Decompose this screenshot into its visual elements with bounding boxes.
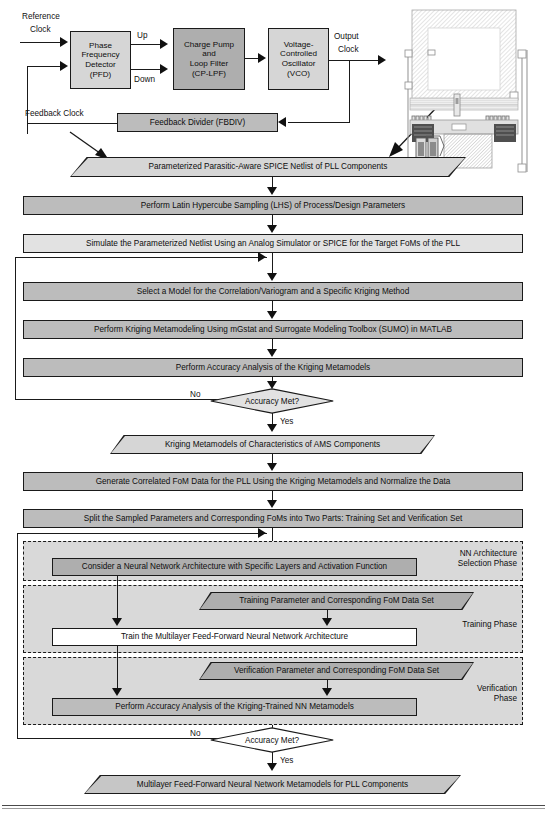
final-metamodels-data-shape: Multilayer Feed-Forward Neural Network M… <box>84 775 461 794</box>
conn-select-to-kriging-arrowhead <box>267 311 277 319</box>
reference-clock-label-line1: Reference <box>22 12 60 22</box>
decision1-yes-label: Yes <box>280 417 293 427</box>
kriging-loop-bottom-wire <box>15 399 218 400</box>
output-tap-vertical-wire <box>349 60 350 123</box>
conn-decision2-to-final-arrowhead <box>267 763 277 771</box>
up-arrowhead <box>160 39 168 49</box>
cplpf-to-vco-arrowhead <box>258 53 266 63</box>
phase-label-nn-architecture-line1: NN Architecture <box>460 549 517 558</box>
output-clock-label-line1: Output <box>334 32 359 42</box>
netlist-data-label: Parameterized Parasitic-Aware SPICE Netl… <box>71 158 465 176</box>
netlist-data-shape: Parameterized Parasitic-Aware SPICE Netl… <box>70 157 466 177</box>
step-train-nn: Train the Multilayer Feed-Forward Neural… <box>52 628 417 646</box>
bottom-divider-rule <box>2 805 545 806</box>
nn-loop-top-wire <box>17 533 267 534</box>
step-kriging-metamodeling: Perform Kriging Metamodeling Using mGsta… <box>23 320 523 339</box>
figure-canvas: Reference Clock Phase Frequency Detector… <box>0 0 547 817</box>
training-data-label: Training Parameter and Corresponding FoM… <box>200 593 473 609</box>
step-select-correlation-model: Select a Model for the Correlation/Vario… <box>23 282 523 301</box>
training-data-shape: Training Parameter and Corresponding FoM… <box>199 592 474 610</box>
step-verify-accuracy-nn: Perform Accuracy Analysis of the Kriging… <box>52 698 417 716</box>
fbdiv-output-wire <box>27 123 117 124</box>
ic-layout-thumbnail-icon <box>400 6 540 174</box>
kriging-metamodels-data-shape: Kriging Metamodels of Characteristics of… <box>110 435 435 454</box>
output-tap-horizontal-wire <box>288 122 350 123</box>
output-clock-label-line2: Clock <box>338 45 358 55</box>
verification-data-shape: Verification Parameter and Corresponding… <box>199 662 474 680</box>
decision-nn-accuracy-met: Accuracy Met? <box>210 727 334 753</box>
verification-data-label: Verification Parameter and Corresponding… <box>200 663 473 679</box>
conn-verifdata-to-verify-arrowhead <box>322 688 332 696</box>
step-latin-hypercube-sampling: Perform Latin Hypercube Sampling (LHS) o… <box>23 196 523 215</box>
down-arrowhead <box>160 64 168 74</box>
step-kriging-accuracy-analysis: Perform Accuracy Analysis of the Kriging… <box>23 358 523 377</box>
decision2-yes-label: Yes <box>280 756 293 766</box>
phase-label-training: Training Phase <box>422 620 517 630</box>
feedback-clock-label: Feedback Clock <box>25 109 84 119</box>
feedback-clock-horizontal-wire <box>27 66 64 67</box>
pll-block-fbdiv: Feedback Divider (FBDIV) <box>117 113 278 132</box>
nn-loop-arrowhead <box>258 528 266 538</box>
step-generate-correlated-fom: Generate Correlated FoM Data for the PLL… <box>23 472 523 491</box>
kriging-metamodels-data-label: Kriging Metamodels of Characteristics of… <box>111 436 434 453</box>
up-wire <box>131 44 163 45</box>
down-wire <box>131 69 163 70</box>
phase-label-nn-architecture-line2: Selection Phase <box>458 559 517 568</box>
phase-label-nn-architecture: NN Architecture Selection Phase <box>422 549 517 570</box>
reference-clock-arrowhead <box>60 37 68 47</box>
conn-generate-to-split-arrowhead <box>267 500 277 508</box>
step-simulate-netlist: Simulate the Parameterized Netlist Using… <box>23 234 523 253</box>
phase-label-verification-line2: Phase <box>494 694 517 703</box>
vco-output-arrowhead <box>378 55 386 65</box>
kriging-loop-arrowhead <box>258 252 266 262</box>
conn-simulate-to-select <box>272 253 273 275</box>
decision-kriging-accuracy-label: Accuracy Met? <box>210 388 334 414</box>
bottom-divider-rule-secondary <box>2 808 545 809</box>
conn-kriging-to-accuracy-arrowhead <box>267 349 277 357</box>
conn-decision1-to-metamodels-arrowhead <box>267 424 277 432</box>
conn-train-to-verify-arrowhead <box>112 688 122 696</box>
up-label: Up <box>137 31 147 41</box>
pll-block-pfd: Phase Frequency Detector (PFD) <box>70 31 131 89</box>
kriging-loop-left-wire <box>15 257 16 400</box>
down-label: Down <box>134 75 155 85</box>
conn-netlist-to-lhs-arrowhead <box>267 187 277 195</box>
feedback-clock-arrowhead <box>60 61 68 71</box>
conn-metamodels-to-generate-arrowhead <box>267 463 277 471</box>
reference-clock-label-line2: Clock <box>30 25 50 35</box>
decision-nn-accuracy-label: Accuracy Met? <box>210 727 334 753</box>
decision2-no-label: No <box>190 729 200 739</box>
conn-trainingdata-to-train-arrowhead <box>322 618 332 626</box>
conn-considernn-to-train <box>117 576 118 620</box>
conn-considernn-to-train-arrowhead <box>112 618 122 626</box>
conn-lhs-to-simulate-arrowhead <box>267 225 277 233</box>
phase-label-verification: Verification Phase <box>422 684 517 705</box>
kriging-loop-top-wire <box>15 257 267 258</box>
decision-kriging-accuracy-met: Accuracy Met? <box>210 388 334 414</box>
conn-train-to-verify <box>117 646 118 690</box>
fbdiv-input-arrowhead <box>278 117 286 127</box>
phase-label-verification-line1: Verification <box>477 684 517 693</box>
reference-clock-wire <box>20 42 64 43</box>
final-metamodels-data-label: Multilayer Feed-Forward Neural Network M… <box>85 776 460 793</box>
step-consider-nn-architecture: Consider a Neural Network Architecture w… <box>52 558 417 576</box>
step-split-sampled-parameters: Split the Sampled Parameters and Corresp… <box>23 509 523 528</box>
pll-block-vco: Voltage- Controlled Oscillator (VCO) <box>268 28 329 90</box>
decision1-no-label: No <box>190 390 200 400</box>
pll-block-cp-lpf: Charge Pump and Loop Filter (CP-LPF) <box>173 28 245 90</box>
vco-output-wire <box>329 60 382 61</box>
conn-simulate-to-select-arrowhead <box>267 273 277 281</box>
nn-loop-bottom-wire <box>17 738 218 739</box>
nn-loop-left-wire <box>17 533 18 739</box>
